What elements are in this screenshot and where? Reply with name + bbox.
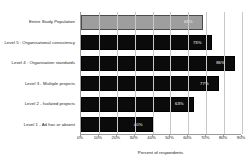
bar: 86%	[81, 56, 235, 71]
x-axis-tick-mark	[223, 135, 224, 137]
bar-row: 68%	[81, 12, 241, 33]
x-axis-tick-mark	[169, 135, 170, 137]
bar-row: 86%	[81, 53, 241, 74]
bar-chart: Entire Study PopulationLevel 5 : Organis…	[0, 0, 249, 167]
category-axis-labels: Entire Study PopulationLevel 5 : Organis…	[0, 12, 78, 135]
x-axis-tick-mark	[205, 135, 206, 137]
bar-value-label: 77%	[200, 82, 218, 86]
x-axis-tick-labels: 0%10%20%30%40%50%60%70%80%90%	[80, 136, 241, 145]
bar-row: 77%	[81, 74, 241, 95]
bar-value-label: 73%	[193, 41, 211, 45]
bar-value-label: 68%	[184, 20, 202, 24]
x-axis-tick-mark	[134, 135, 135, 137]
x-axis-tick-mark	[241, 135, 242, 137]
category-label: Level 1 - Ad hoc or absent	[24, 115, 75, 136]
bar: 77%	[81, 76, 219, 91]
plot-area: 68%73%86%77%63%40%	[80, 12, 241, 135]
x-axis-tick-mark	[187, 135, 188, 137]
category-label: Entire Study Population	[29, 12, 75, 33]
bar-value-label: 40%	[134, 123, 152, 127]
category-label: Level 4 : Organisation standards	[12, 53, 75, 74]
x-axis-tick-mark	[116, 135, 117, 137]
bar-row: 40%	[81, 115, 241, 136]
gridline	[153, 12, 154, 134]
category-label: Level 2 - Isolated projects	[25, 94, 75, 115]
gridline	[135, 12, 136, 134]
gridline	[188, 12, 189, 134]
gridline	[117, 12, 118, 134]
gridline	[170, 12, 171, 134]
x-axis-tick-mark	[98, 135, 99, 137]
x-axis-tick-mark	[80, 135, 81, 137]
bar-rows: 68%73%86%77%63%40%	[81, 12, 241, 134]
x-axis-tick-mark	[152, 135, 153, 137]
bar-row: 63%	[81, 94, 241, 115]
gridline	[99, 12, 100, 134]
gridline	[224, 12, 225, 134]
bar: 73%	[81, 35, 212, 50]
bar-value-label: 63%	[175, 102, 193, 106]
x-axis-title: Percent of respondents	[80, 151, 241, 155]
gridline	[206, 12, 207, 134]
category-label: Level 3 - Multiple projects	[25, 74, 75, 95]
gridline	[242, 12, 243, 134]
bar-row: 73%	[81, 33, 241, 54]
category-label: Level 5 : Organisational consistency	[4, 33, 75, 54]
